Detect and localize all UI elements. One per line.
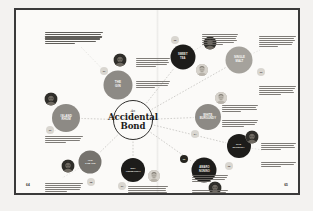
copy-line xyxy=(128,190,166,191)
copy-line xyxy=(45,38,100,39)
step-badge-b1: 01 xyxy=(100,67,108,75)
step-badge-b5: 05 xyxy=(225,162,233,170)
copy-line xyxy=(45,185,81,186)
copy-line xyxy=(45,183,83,184)
hub-title-line-2: Bond xyxy=(121,122,146,131)
step-badge-b9: 09 xyxy=(46,126,54,134)
node-label-stack: OLDTOM GIN xyxy=(83,159,97,165)
node-label-stack: SINGLEMALT xyxy=(232,57,246,64)
spread-page: THEGINSWEETTEASINGLEMALTWHITEBURGUNDYRYE… xyxy=(16,10,298,193)
copy-line xyxy=(136,87,155,88)
copy-line xyxy=(45,32,103,33)
portrait-photo-p5 xyxy=(246,131,259,144)
node-label-secondary: GIN xyxy=(114,85,122,88)
copy-line xyxy=(136,66,156,67)
copy-line xyxy=(261,147,295,148)
node-label-secondary: BURGUNDY xyxy=(199,117,217,120)
copy-line xyxy=(128,188,166,189)
diagram-node-n1: THEGIN xyxy=(104,71,133,100)
copy-line xyxy=(259,88,295,89)
body-copy-c4 xyxy=(202,34,238,45)
copy-line xyxy=(222,111,241,112)
portrait-photo-p7 xyxy=(148,170,160,182)
body-copy-c9 xyxy=(261,143,296,150)
portrait-photo-p8 xyxy=(62,160,75,173)
folio-left: 64 xyxy=(26,183,30,187)
copy-line xyxy=(202,40,237,41)
copy-line xyxy=(222,126,244,127)
copy-line xyxy=(192,179,225,180)
node-label-secondary: TEA xyxy=(177,57,188,60)
copy-line xyxy=(45,34,101,35)
copy-line xyxy=(261,149,281,150)
diagram-node-n9: ISLANDRHUM xyxy=(52,104,80,132)
body-copy-c2 xyxy=(136,58,170,67)
node-label-stack: SWEETTEA xyxy=(177,54,189,60)
spread-gutter xyxy=(156,10,159,193)
step-badge-b6: 06 xyxy=(180,155,188,163)
copy-line xyxy=(45,187,81,188)
body-copy-c7 xyxy=(222,105,258,112)
node-label-stack: AMARONONINO xyxy=(197,167,211,173)
diagram-node-n3: SINGLEMALT xyxy=(226,47,253,74)
copy-line xyxy=(259,36,296,37)
node-label-secondary: WHISKEY xyxy=(232,146,246,149)
spread-frame: THEGINSWEETTEASINGLEMALTWHITEBURGUNDYRYE… xyxy=(14,8,300,195)
copy-line xyxy=(259,44,292,45)
body-copy-c1 xyxy=(45,32,103,44)
center-hub: An Accidental Bond xyxy=(113,100,153,140)
copy-line xyxy=(192,190,228,191)
node-label-stack: ISLANDRHUM xyxy=(59,115,73,122)
portrait-photo-p9 xyxy=(45,93,58,106)
copy-line xyxy=(136,62,169,63)
body-copy-c10 xyxy=(261,162,296,167)
node-label-stack: THEGIN xyxy=(114,81,123,88)
copy-line xyxy=(222,107,256,108)
node-label-secondary: VERMOUTH xyxy=(125,170,142,173)
copy-line xyxy=(45,136,83,137)
body-copy-c13 xyxy=(128,186,168,193)
diagram-node-n7: DRYVERMOUTH xyxy=(121,158,145,182)
copy-line xyxy=(136,83,169,84)
portrait-photo-p1 xyxy=(114,54,127,67)
copy-line xyxy=(136,81,170,82)
copy-line xyxy=(261,145,294,146)
body-copy-c5 xyxy=(259,36,296,47)
copy-line xyxy=(136,64,167,65)
copy-line xyxy=(202,38,236,39)
copy-line xyxy=(259,46,278,47)
body-copy-c14 xyxy=(45,183,83,192)
copy-line xyxy=(202,34,238,35)
copy-line xyxy=(192,181,211,182)
step-badge-b3: 03 xyxy=(257,68,265,76)
copy-line xyxy=(202,44,223,45)
step-badge-b2: 02 xyxy=(171,36,179,44)
body-copy-c8 xyxy=(222,120,258,127)
copy-line xyxy=(202,36,237,37)
copy-line xyxy=(202,42,234,43)
body-copy-c12 xyxy=(192,190,228,193)
copy-line xyxy=(259,40,295,41)
body-copy-c3 xyxy=(136,81,170,88)
copy-line xyxy=(192,175,228,176)
copy-line xyxy=(45,189,80,190)
node-label-secondary: NONINO xyxy=(198,170,211,173)
copy-line xyxy=(222,120,258,121)
copy-line xyxy=(222,109,257,110)
portrait-photo-p3 xyxy=(196,64,208,76)
step-badge-b7: 07 xyxy=(118,182,126,190)
copy-line xyxy=(45,138,81,139)
body-copy-c15 xyxy=(45,136,83,143)
diagram-node-n4: WHITEBURGUNDY xyxy=(195,104,221,130)
copy-line xyxy=(128,186,168,187)
step-badge-b4: 04 xyxy=(191,130,199,138)
folio-right: 65 xyxy=(284,183,288,187)
copy-line xyxy=(45,41,96,42)
copy-line xyxy=(261,143,296,144)
copy-line xyxy=(45,36,102,37)
node-label-secondary: TOM GIN xyxy=(84,162,96,165)
copy-line xyxy=(136,85,168,86)
copy-line xyxy=(136,60,168,61)
node-label-stack: RYEWHISKEY xyxy=(231,143,246,149)
copy-line xyxy=(45,191,67,192)
